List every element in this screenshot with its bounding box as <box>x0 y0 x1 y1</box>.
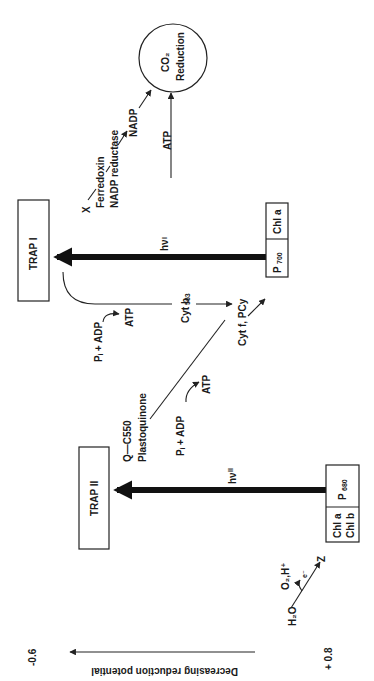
p700-label: P <box>272 266 283 273</box>
cyclic-electron-path <box>63 272 172 304</box>
x-label: X <box>81 206 92 213</box>
cyclic-input-label: Pᵢ + ADP <box>93 321 104 362</box>
light-label-ii: hν <box>227 472 238 484</box>
plastoquinone-label: Plastoquinone <box>137 393 148 462</box>
noncyclic-input-label: Pᵢ + ADP <box>175 415 186 456</box>
trap-i-label: TRAP I <box>28 237 39 270</box>
cyclic-phosphorylation-arrow <box>103 314 119 322</box>
oxygen-label: O₂,H⁺ <box>280 563 291 591</box>
psii-pigment-chlb: Chl b <box>345 513 356 538</box>
water-label: H₂O <box>287 606 298 626</box>
electron-label: e⁻ <box>301 570 308 578</box>
reduction-label: Reduction <box>175 32 186 81</box>
q-c550-label: Q—C550 <box>122 420 133 462</box>
p680-label: P <box>337 493 348 500</box>
nadp-to-co2-arrow <box>139 90 151 108</box>
light-label-i: hν <box>159 239 170 251</box>
light-sub-i: I <box>161 237 168 239</box>
water-to-z-arrow <box>291 562 320 608</box>
p700-sub: 700 <box>276 252 283 264</box>
nadp-reductase-label: NADP reductase <box>109 129 120 208</box>
psii-pigment-chla: Chl a <box>332 513 343 538</box>
cyt-b-sub: 563 <box>184 293 191 305</box>
psi-pigment-chla: Chl a <box>272 209 283 234</box>
cytf-to-p700-arrow <box>248 299 265 316</box>
oxygen-release-arrow <box>299 580 302 591</box>
z-label: Z <box>316 556 327 562</box>
light-sub-ii: II <box>227 468 234 472</box>
axis-bottom-value: + 0.8 <box>323 647 334 670</box>
axis-top-value: -0.6 <box>27 648 38 666</box>
noncyclic-phosphorylation-arrow <box>186 382 199 402</box>
ferredoxin-label: Ferredoxin <box>95 156 106 208</box>
trap-ii-label: TRAP II <box>89 480 100 516</box>
cyclic-output-label: ATP <box>124 307 135 327</box>
q-to-cytf-line <box>150 320 225 419</box>
p680-sub: 680 <box>341 479 348 491</box>
z-scheme-diagram: Decreasing reduction potential -0.6 + 0.… <box>0 0 374 681</box>
cyt-f-label: Cyt f, PCy <box>237 298 248 346</box>
atp-to-co2-label: ATP <box>162 130 173 150</box>
co2-reduction-circle <box>139 24 207 92</box>
noncyclic-output-label: ATP <box>201 374 212 394</box>
co2-label: CO₂ <box>160 53 171 72</box>
axis-label: Decreasing reduction potential <box>91 666 238 677</box>
nadp-label: NADP <box>128 108 139 137</box>
